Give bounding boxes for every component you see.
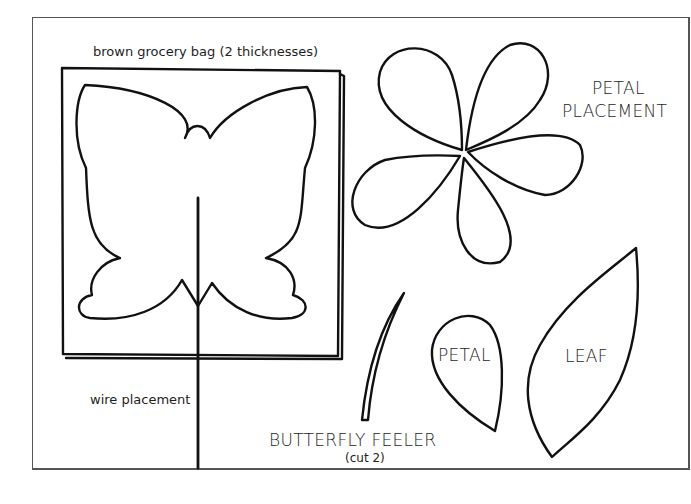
petal-placement-label-line1: PETAL: [592, 78, 645, 98]
butterfly-outline: [76, 85, 315, 319]
grocery-bag-label: brown grocery bag (2 thicknesses): [93, 44, 318, 59]
butterfly-feeler-outline: [362, 293, 404, 420]
leaf-label: LEAF: [565, 346, 608, 366]
petal-outline: [432, 316, 502, 431]
petal-placement-label-line2: PLACEMENT: [562, 101, 667, 121]
cut-two-note: (cut 2): [345, 451, 385, 465]
flower-petal-placement: [352, 43, 582, 263]
petal-label: PETAL: [438, 345, 491, 365]
pattern-drawing: [0, 0, 691, 504]
butterfly-feeler-label: BUTTERFLY FEELER: [269, 430, 436, 450]
wire-placement-label: wire placement: [90, 392, 190, 407]
